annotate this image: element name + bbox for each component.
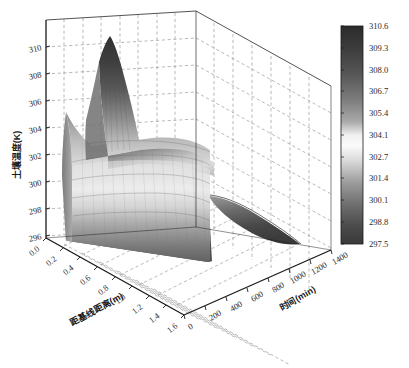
z-tick-304: 304	[28, 123, 43, 136]
colorbar-gradient	[341, 26, 363, 244]
x-tick-1.6: 1.6	[165, 321, 180, 335]
back-top-right-edge	[196, 11, 331, 86]
y-tick-1400: 1400	[330, 250, 350, 267]
x-tick-0.2: 0.2	[44, 254, 59, 268]
x-tick-0.6: 0.6	[78, 273, 93, 287]
x-tick-0.4: 0.4	[61, 262, 76, 277]
y-tick-0: 0	[186, 321, 195, 332]
z-tick-310: 310	[28, 42, 43, 55]
surface-mesh	[62, 36, 301, 294]
z-tick-300: 300	[28, 177, 43, 190]
y-tick-1200: 1200	[309, 260, 329, 277]
colorbar-label-4: 305.4	[369, 108, 389, 118]
colorbar[interactable]: 310.6 309.3 308.0 306.7 305.4 304.1 302.…	[341, 21, 389, 249]
y-tick-800: 800	[270, 280, 286, 295]
surface-plot-svg: 310 308 306 304 302 300 298 296 土壤温度(K) …	[0, 0, 409, 368]
colorbar-label-0: 310.6	[369, 21, 389, 31]
z-tick-302: 302	[28, 150, 43, 163]
colorbar-label-1: 309.3	[369, 43, 388, 53]
x-tick-0.8: 0.8	[96, 283, 111, 297]
colorbar-label-3: 306.7	[369, 86, 389, 96]
back-wall-right-grid	[196, 23, 331, 292]
y-tick-1000: 1000	[288, 269, 308, 286]
x-axis-label: 距基线距离(m)	[68, 290, 125, 328]
back-top-left-edge	[46, 11, 196, 20]
z-tick-298: 298	[28, 204, 43, 217]
colorbar-label-2: 308.0	[369, 65, 388, 75]
z-tick-296: 296	[28, 231, 43, 244]
z-tick-308: 308	[28, 69, 43, 82]
x-tick-1.4: 1.4	[147, 310, 162, 325]
figure-canvas: 310 308 306 304 302 300 298 296 土壤温度(K) …	[0, 0, 409, 368]
y-tick-400: 400	[228, 299, 244, 314]
x-tick-1.2: 1.2	[130, 302, 145, 316]
z-axis-label: 土壤温度(K)	[11, 131, 22, 180]
colorbar-label-8: 300.1	[369, 195, 388, 205]
z-tick-306: 306	[28, 96, 43, 109]
x-tick-0.0: 0.0	[27, 244, 42, 258]
colorbar-label-6: 302.7	[369, 152, 389, 162]
y-tick-200: 200	[207, 308, 223, 323]
z-axis-ticks: 310 308 306 304 302 300 298 296	[28, 42, 50, 244]
colorbar-label-5: 304.1	[369, 130, 388, 140]
y-tick-600: 600	[249, 289, 265, 304]
colorbar-label-10: 297.5	[369, 239, 388, 249]
colorbar-label-7: 301.4	[369, 173, 389, 183]
y-axis-ticks: 0 200 400 600 800 1000 1200 1400	[184, 250, 350, 332]
colorbar-label-9: 298.8	[369, 217, 388, 227]
